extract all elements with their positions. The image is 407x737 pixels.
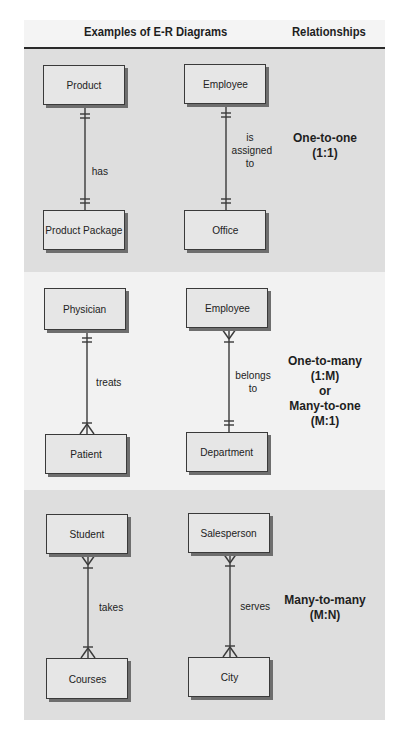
entity-employee: Employee bbox=[184, 64, 266, 104]
relationship-label-has: has bbox=[92, 165, 108, 178]
entity-student: Student bbox=[46, 514, 128, 554]
relationship-label-is-assigned-to: is assigned to bbox=[232, 131, 269, 170]
relationship-label-takes: takes bbox=[99, 601, 123, 614]
er-diagram-panel: Examples of E-R Diagrams Relationships bbox=[24, 20, 385, 720]
entity-city: City bbox=[188, 657, 270, 697]
relationship-type-one-to-one: One-to-one (1:1) bbox=[265, 131, 385, 161]
relationship-label-treats: treats bbox=[96, 376, 121, 389]
relationship-type-many-to-many: Many-to-many (M:N) bbox=[265, 593, 385, 623]
entity-salesperson: Salesperson bbox=[188, 513, 270, 553]
entity-courses: Courses bbox=[46, 658, 128, 699]
entity-office: Office bbox=[184, 210, 266, 250]
entity-physician: Physician bbox=[44, 288, 126, 330]
relationship-type-one-to-many: One-to-many (1:M) or Many-to-one (M:1) bbox=[265, 354, 385, 429]
entity-product-package: Product Package bbox=[43, 210, 125, 250]
entity-patient: Patient bbox=[45, 434, 127, 474]
entity-product: Product bbox=[43, 65, 125, 105]
entity-employee-2: Employee bbox=[186, 288, 268, 328]
entity-department: Department bbox=[186, 432, 268, 472]
